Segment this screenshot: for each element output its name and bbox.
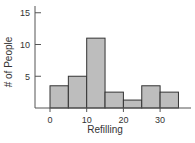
histogram-bar [123, 100, 141, 108]
histogram-bar [142, 86, 160, 108]
histogram-bar [68, 76, 86, 108]
histogram-bar [160, 92, 178, 108]
histogram-bar [87, 38, 105, 108]
x-axis-label: Refilling [87, 124, 123, 135]
x-tick-label: 30 [155, 115, 165, 125]
y-tick-label: 5 [25, 72, 30, 82]
x-tick-label: 0 [47, 115, 52, 125]
chart-canvas: 510150102030 # of People Refilling [0, 0, 195, 143]
bars-group [50, 38, 178, 108]
histogram-bar [105, 92, 123, 108]
y-tick-label: 10 [20, 40, 30, 50]
y-axis-label: # of People [3, 36, 14, 87]
y-tick-label: 15 [20, 8, 30, 18]
histogram-bar [50, 86, 68, 108]
histogram-chart: 510150102030 # of People Refilling [0, 0, 195, 143]
